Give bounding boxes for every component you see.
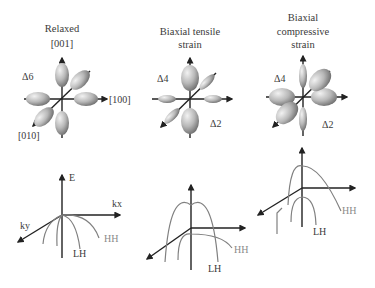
- valley-ellipsoid-right: [204, 95, 222, 103]
- valley-ellipsoid-bottom: [181, 108, 199, 134]
- axis-label-100: [100]: [109, 94, 131, 105]
- valley-ellipsoid-top: [181, 65, 199, 91]
- valley-ellipsoid-front: [31, 104, 58, 131]
- valley-label-delta6: Δ6: [22, 71, 33, 82]
- title-line-2: [001]: [51, 38, 74, 49]
- panel-relaxed: Relaxed [001] Δ6 [100] [010]: [18, 23, 131, 141]
- title-line-2: compressive: [277, 26, 330, 37]
- band-lh-kx: [62, 215, 80, 249]
- title-line-1: Biaxial tensile: [160, 26, 221, 37]
- band-diagram-tensile: HH LH: [147, 185, 248, 274]
- valley-label-delta2: Δ2: [210, 118, 221, 129]
- axis-label-010: [010]: [18, 130, 40, 141]
- band-lh-ky: [57, 215, 62, 246]
- valley-ellipsoid-left: [158, 95, 176, 103]
- axis-label-kx: kx: [112, 198, 122, 209]
- valley-label-delta2: Δ2: [322, 119, 333, 130]
- title-line-3: strain: [291, 39, 315, 50]
- title-line-1: Biaxial: [288, 12, 318, 23]
- valley-label-delta4: Δ4: [274, 73, 285, 84]
- band-label-hh: HH: [342, 205, 356, 216]
- band-hh-ky-branch: [277, 208, 282, 234]
- valley-ellipsoid-left: [26, 92, 50, 106]
- valley-ellipsoid-top: [299, 64, 307, 88]
- band-label-lh: LH: [73, 248, 86, 259]
- valley-ellipsoid-front: [162, 106, 182, 126]
- band-label-lh: LH: [208, 263, 221, 274]
- valley-ellipsoid-right: [74, 92, 98, 106]
- panel-tensile: Biaxial tensile strain Δ4 Δ2: [152, 26, 232, 138]
- band-diagram-relaxed: E kx ky HH LH: [18, 172, 122, 259]
- valley-ellipsoid-top: [55, 63, 69, 87]
- band-hh: [178, 234, 232, 260]
- panel-compressive: Biaxial compressive strain Δ4 Δ2: [266, 12, 347, 136]
- band-diagram-compressive: HH LH: [258, 148, 356, 237]
- valley-label-delta4: Δ4: [157, 73, 168, 84]
- title-line-2: strain: [178, 39, 202, 50]
- axis-label-e: E: [69, 172, 75, 183]
- valley-ellipsoid-bottom: [55, 111, 69, 135]
- band-label-hh: HH: [104, 233, 118, 244]
- valley-ellipsoid-bottom: [299, 107, 307, 131]
- band-label-lh: LH: [313, 226, 326, 237]
- axis-label-ky: ky: [20, 220, 30, 231]
- strain-diagram: Relaxed [001] Δ6 [100] [010] Biaxial ten…: [0, 0, 375, 288]
- band-lh: [291, 197, 316, 225]
- valley-ellipsoid-back: [197, 72, 217, 92]
- axis-ky: [147, 228, 191, 259]
- band-label-hh: HH: [234, 244, 248, 255]
- title-line-1: Relaxed: [45, 23, 80, 34]
